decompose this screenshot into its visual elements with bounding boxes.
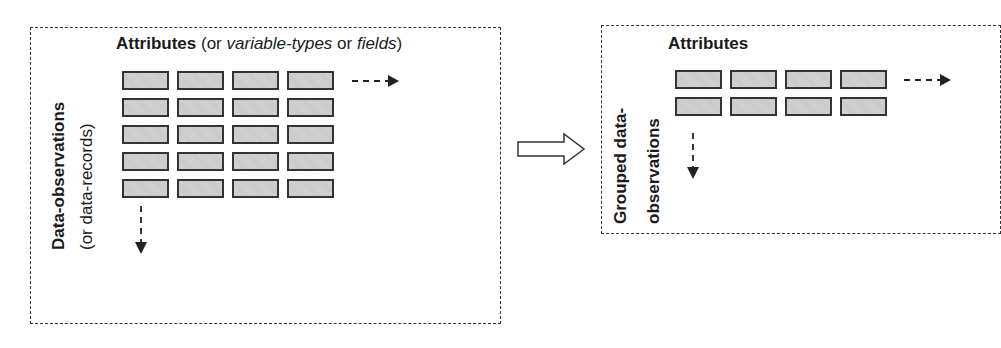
left-title-close: ) (397, 34, 403, 53)
left-title-mid: or (332, 34, 357, 53)
left-cell (232, 125, 279, 144)
left-title-open: (or (196, 34, 226, 53)
left-attributes-title: Attributes (or variable-types or fields) (116, 34, 402, 54)
right-dashed-arrow-down-icon (686, 133, 700, 179)
left-attributes-bold: Attributes (116, 34, 196, 53)
left-title-italic-fields: fields (357, 34, 397, 53)
left-cell (287, 152, 334, 171)
left-cell (232, 98, 279, 117)
left-cell (177, 179, 224, 198)
left-cell (122, 98, 169, 117)
transform-arrow-icon (517, 133, 587, 165)
right-dashed-arrow-right-icon (904, 73, 954, 87)
right-row-label-line1: Grouped data- (611, 108, 631, 224)
right-cell (840, 97, 887, 116)
right-attributes-title: Attributes (668, 34, 748, 54)
left-dashed-arrow-down-icon (134, 206, 148, 254)
right-row-label-line2: observations (644, 118, 664, 224)
left-cell (177, 98, 224, 117)
left-row-label-bold: Data-observations (49, 102, 69, 250)
right-cell (730, 97, 777, 116)
right-cell (785, 70, 832, 89)
left-row-label-sub: (or data-records) (77, 123, 97, 250)
left-cell (177, 152, 224, 171)
left-cell (287, 179, 334, 198)
left-title-italic-variable-types: variable-types (227, 34, 333, 53)
right-cell (730, 70, 777, 89)
right-cell (840, 70, 887, 89)
left-cell (122, 179, 169, 198)
left-cell (122, 125, 169, 144)
left-cell (232, 152, 279, 171)
right-cell (785, 97, 832, 116)
right-cell (675, 70, 722, 89)
right-cell (675, 97, 722, 116)
left-cell (122, 71, 169, 90)
left-cell (177, 125, 224, 144)
left-cell (287, 98, 334, 117)
left-dashed-arrow-right-icon (352, 74, 402, 88)
left-cell (232, 71, 279, 90)
left-cell (232, 179, 279, 198)
left-cell (287, 125, 334, 144)
left-cell (287, 71, 334, 90)
left-cell (177, 71, 224, 90)
left-cell (122, 152, 169, 171)
